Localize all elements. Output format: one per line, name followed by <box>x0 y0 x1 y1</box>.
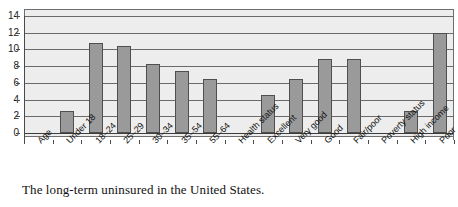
y-tick-mark <box>16 83 20 84</box>
bar-slot <box>225 16 254 133</box>
y-tick-mark <box>16 16 20 17</box>
bar <box>203 79 217 133</box>
figure-container: 14121086420 AgeUnder 1818–2425–2930–3435… <box>0 0 458 207</box>
x-axis-category-labels: AgeUnder 1818–2425–2930–3435–5455–64Heal… <box>24 137 454 185</box>
y-tick-mark <box>16 66 20 67</box>
bar <box>175 71 189 133</box>
bar <box>117 46 131 133</box>
y-tick-mark <box>16 116 20 117</box>
bar-slot <box>139 16 168 133</box>
y-axis-line <box>24 16 25 140</box>
figure-caption: The long-term uninsured in the United St… <box>22 182 264 198</box>
bar-slot <box>110 16 139 133</box>
bar-slot <box>53 16 82 133</box>
plot-right-edge <box>453 16 454 140</box>
bar-slot <box>24 16 53 133</box>
bar <box>146 64 160 133</box>
x-tick-mark <box>454 140 455 144</box>
bar <box>347 59 361 133</box>
y-tick-mark <box>16 133 20 134</box>
bar-slot <box>339 16 368 133</box>
bar-slot <box>167 16 196 133</box>
y-tick-mark <box>16 100 20 101</box>
y-tick-mark <box>16 33 20 34</box>
y-tick-mark <box>16 49 20 50</box>
bar-slot <box>196 16 225 133</box>
y-axis-labels: 14121086420 <box>0 9 19 137</box>
